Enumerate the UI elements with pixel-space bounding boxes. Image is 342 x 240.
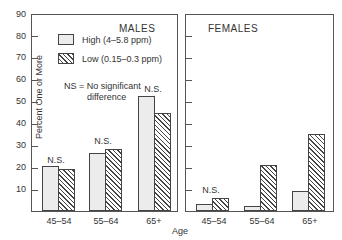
y-tick (186, 190, 192, 191)
bar-females-65-high (292, 191, 309, 211)
ns-annotation: N.S. (41, 155, 71, 165)
y-tick-label: 10 (4, 184, 26, 194)
x-label: 65+ (290, 216, 330, 226)
y-tick-label: 30 (4, 140, 26, 150)
y-tick-label: 40 (4, 118, 26, 128)
bar-males-65-low (154, 113, 171, 211)
y-tick (186, 36, 192, 37)
y-tick (32, 58, 38, 59)
legend-high-label: High (4–5.8 ppm) (82, 35, 152, 45)
x-label: 45–54 (39, 216, 79, 226)
bar-females-65-low (308, 134, 325, 211)
bar-males-55-64-high (89, 153, 106, 211)
y-tick (186, 58, 192, 59)
y-tick (32, 124, 38, 125)
x-label: 55–64 (242, 216, 282, 226)
females-title: FEMALES (208, 23, 258, 34)
bar-males-45-54-low (58, 169, 75, 211)
y-tick (32, 146, 38, 147)
males-panel: MALES High (4–5.8 ppm) Low (0.15–0.3 ppm… (31, 14, 178, 212)
y-tick (32, 102, 38, 103)
females-panel: FEMALES N.S. (185, 14, 334, 212)
y-tick-label: 90 (4, 9, 26, 19)
y-tick (186, 168, 192, 169)
ns-note-line1: NS = No significant (64, 81, 141, 91)
y-tick (32, 190, 38, 191)
bar-females-55-64-high (244, 206, 261, 211)
bar-females-45-54-high (196, 204, 213, 211)
y-tick (32, 80, 38, 81)
ns-annotation: N.S. (196, 185, 226, 195)
y-tick-label: 80 (4, 31, 26, 41)
y-tick-label: 60 (4, 74, 26, 84)
legend-low-label: Low (0.15–0.3 ppm) (82, 54, 162, 64)
x-axis-title: Age (172, 226, 188, 236)
x-label: 65+ (134, 216, 174, 226)
bar-males-55-64-low (105, 149, 122, 211)
males-title: MALES (119, 23, 155, 34)
x-label: 55–64 (86, 216, 126, 226)
y-tick-label: 70 (4, 52, 26, 62)
ns-annotation: N.S. (138, 84, 168, 94)
ns-note-line2: difference (87, 92, 126, 102)
legend-low-swatch (58, 53, 74, 64)
y-tick-label: 20 (4, 162, 26, 172)
ns-annotation: N.S. (88, 136, 118, 146)
bar-females-45-54-low (212, 198, 229, 211)
legend-high-swatch (58, 34, 74, 45)
y-tick-label: 50 (4, 96, 26, 106)
x-label: 45–54 (194, 216, 234, 226)
y-tick (32, 36, 38, 37)
y-tick (186, 124, 192, 125)
y-tick (186, 146, 192, 147)
y-tick (186, 80, 192, 81)
bar-males-65-high (138, 96, 155, 211)
y-tick (186, 102, 192, 103)
bar-males-45-54-high (42, 166, 59, 211)
y-tick (32, 168, 38, 169)
bar-females-55-64-low (260, 165, 277, 211)
